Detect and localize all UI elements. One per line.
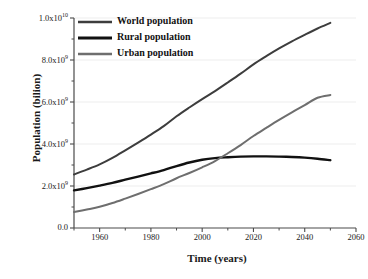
population-line-chart: Population (bilion) 0.02.0x1094.0x1096.0… [0, 0, 368, 279]
legend-label-2: Urban population [117, 47, 193, 58]
legend-label-1: Rural population [117, 31, 191, 42]
series-line-2 [74, 95, 330, 212]
legend-label-0: World population [117, 15, 193, 26]
series-line-0 [74, 23, 330, 175]
series-line-1 [74, 156, 330, 190]
